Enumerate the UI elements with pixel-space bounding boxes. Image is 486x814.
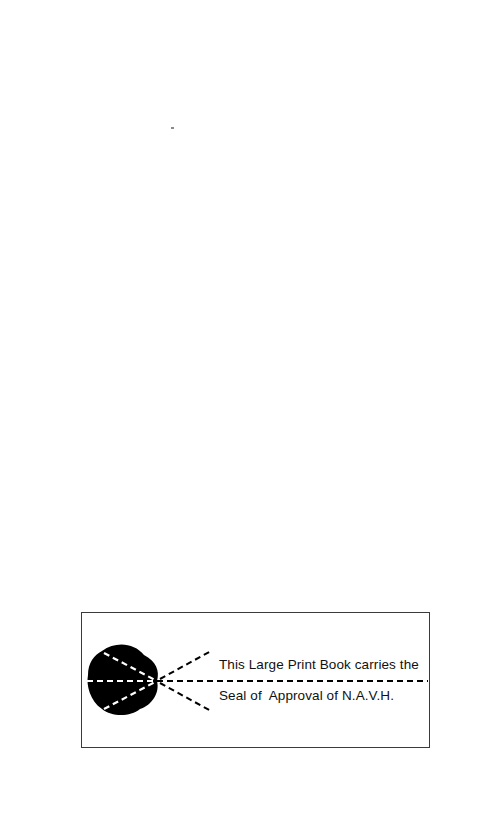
page-speck xyxy=(171,127,174,129)
eye-icon xyxy=(82,613,429,747)
seal-text-line1: This Large Print Book carries the xyxy=(219,657,419,672)
navh-seal-box: This Large Print Book carries the Seal o… xyxy=(81,612,430,748)
seal-text-line2: Seal of Approval of N.A.V.H. xyxy=(219,688,394,703)
